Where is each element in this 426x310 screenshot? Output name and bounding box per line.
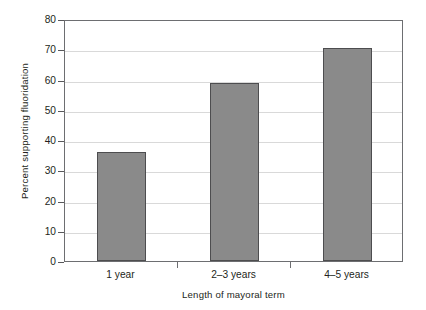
x-axis-title: Length of mayoral term <box>64 289 403 300</box>
y-axis-tick-label: 70 <box>26 45 56 55</box>
bar <box>97 152 146 261</box>
y-axis-tick-label: 0 <box>26 257 56 267</box>
y-axis-tick-label: 40 <box>26 136 56 146</box>
y-axis-tick-labels: 01020304050607080 <box>26 0 56 310</box>
y-axis-tick-label: 30 <box>26 166 56 176</box>
y-axis-tick-label: 50 <box>26 106 56 116</box>
bar <box>210 83 259 261</box>
y-axis-tick-label: 60 <box>26 75 56 85</box>
x-axis-tick-mark <box>177 262 178 268</box>
bar-chart: Percent supporting fluoridation 01020304… <box>0 0 426 310</box>
y-axis-tick-label: 10 <box>26 227 56 237</box>
bar <box>323 48 372 261</box>
y-axis-tick-label: 80 <box>26 15 56 25</box>
x-axis-category-label: 1 year <box>106 270 134 280</box>
x-axis-tick-mark <box>290 262 291 268</box>
plot-area <box>64 20 403 262</box>
x-axis-category-label: 2–3 years <box>211 270 256 280</box>
y-axis-tick-label: 20 <box>26 196 56 206</box>
x-axis-category-label: 4–5 years <box>324 270 369 280</box>
y-axis-tick-mark <box>58 262 64 263</box>
